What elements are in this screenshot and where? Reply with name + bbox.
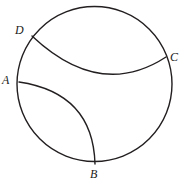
- point-label-d: D: [15, 24, 24, 36]
- figure-background: [0, 0, 183, 182]
- geometry-canvas: [0, 0, 183, 182]
- point-label-a: A: [2, 74, 9, 86]
- point-label-b: B: [90, 168, 97, 180]
- geometry-figure: D A C B: [0, 0, 183, 182]
- point-label-c: C: [170, 51, 178, 63]
